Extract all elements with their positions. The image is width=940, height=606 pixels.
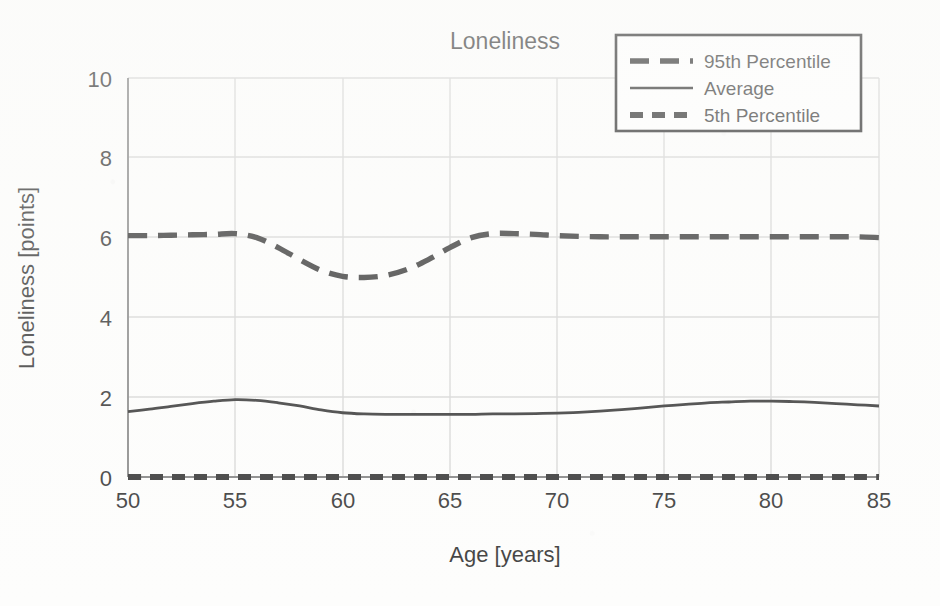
legend-label-95th-percentile: 95th Percentile [704,51,831,72]
x-tick-55: 55 [223,488,247,513]
x-tick-70: 70 [545,488,569,513]
y-axis-title: Loneliness [points] [14,187,39,369]
chart-title: Loneliness [450,28,560,54]
x-tick-65: 65 [438,488,462,513]
chart-figure: Loneliness Loneliness [points] Age [year… [0,0,940,606]
vertical-gridlines [235,78,879,477]
series-average [128,400,879,415]
x-tick-75: 75 [652,488,676,513]
y-tick-2: 2 [100,386,112,411]
y-tick-10: 10 [88,67,112,92]
x-tick-labels: 50 55 60 65 70 75 80 85 [116,488,891,513]
y-tick-labels: 0 2 4 6 8 10 [88,67,112,491]
legend[interactable]: 95th Percentile Average 5th Percentile [616,35,861,131]
x-tick-50: 50 [116,488,140,513]
x-tick-60: 60 [331,488,355,513]
series-95th-percentile [128,233,879,277]
y-tick-4: 4 [100,306,112,331]
data-series [128,233,879,477]
x-tick-80: 80 [759,488,783,513]
chart-canvas: Loneliness Loneliness [points] Age [year… [0,0,940,606]
x-axis-title: Age [years] [449,542,560,567]
legend-label-5th-percentile: 5th Percentile [704,105,820,126]
x-tick-85: 85 [867,488,891,513]
y-tick-8: 8 [100,146,112,171]
legend-label-average: Average [704,78,774,99]
y-tick-6: 6 [100,226,112,251]
y-tick-0: 0 [100,466,112,491]
